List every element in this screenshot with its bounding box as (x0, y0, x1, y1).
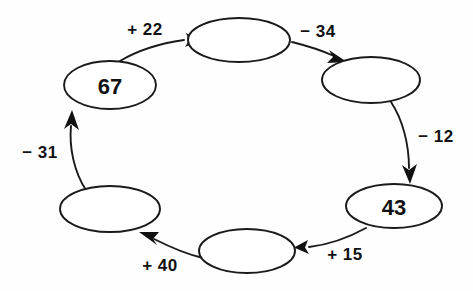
node-top-shape[interactable] (188, 18, 290, 62)
edge-top-to-right-upper-path (292, 42, 334, 56)
node-right-upper[interactable] (322, 57, 420, 103)
node-right-upper-shape[interactable] (322, 57, 420, 103)
node-left-upper-value: 67 (98, 74, 122, 99)
node-bottom-shape[interactable] (199, 229, 295, 273)
edge-right-upper-to-43: − 12 (391, 102, 454, 184)
edge-43-to-bottom: + 15 (294, 228, 366, 264)
edge-label-minus-34: − 34 (300, 22, 336, 41)
edge-43-to-bottom-arrowhead (294, 240, 309, 254)
edge-bottom-to-left-lower-arrowhead (139, 232, 159, 245)
node-left-upper[interactable]: 67 (64, 61, 156, 109)
edge-left-lower-to-67-path (71, 126, 86, 190)
edge-label-plus-40: + 40 (142, 256, 178, 275)
edge-top-to-right-upper: − 34 (292, 22, 347, 64)
edge-right-upper-to-43-path (391, 102, 409, 168)
node-left-lower[interactable] (60, 186, 160, 232)
node-bottom[interactable] (199, 229, 295, 273)
edge-label-minus-31: − 31 (22, 143, 58, 162)
edge-left-lower-to-67: − 31 (22, 110, 86, 190)
node-top[interactable] (188, 18, 290, 62)
edge-label-plus-22: + 22 (127, 20, 163, 39)
edge-label-minus-12: − 12 (418, 127, 454, 146)
node-right-lower-value: 43 (382, 195, 406, 220)
node-left-lower-shape[interactable] (60, 186, 160, 232)
cycle-diagram-canvas: + 22 − 34 − 12 + 15 + 40 (0, 0, 473, 291)
edge-label-plus-15: + 15 (327, 245, 363, 264)
cycle-diagram-svg: + 22 − 34 − 12 + 15 + 40 (0, 0, 473, 291)
edge-bottom-to-left-lower: + 40 (139, 232, 203, 275)
node-right-lower[interactable]: 43 (346, 184, 442, 228)
edge-67-to-top-path (120, 40, 184, 61)
